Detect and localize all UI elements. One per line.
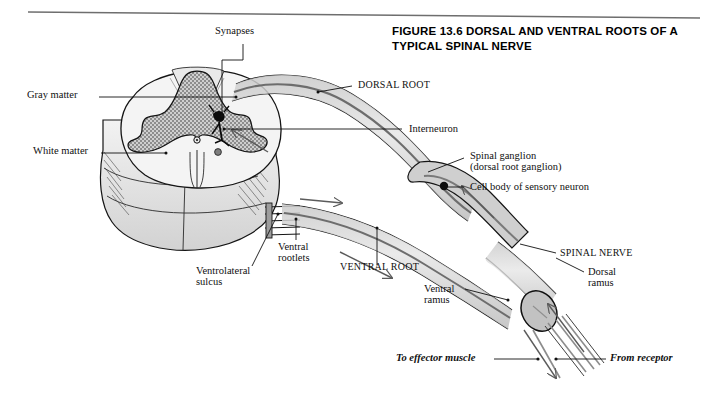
label-from-receptor: From receptor xyxy=(610,352,673,363)
label-dorsal-ramus: Dorsalramus xyxy=(588,266,616,289)
label-white-matter: White matter xyxy=(33,145,88,156)
figure-canvas: FIGURE 13.6 DORSAL AND VENTRAL ROOTS OF … xyxy=(0,0,718,407)
label-synapses: Synapses xyxy=(215,25,254,36)
label-interneuron: Interneuron xyxy=(409,123,458,134)
figure-title: FIGURE 13.6 DORSAL AND VENTRAL ROOTS OF … xyxy=(392,24,692,53)
nerve-cut-end xyxy=(514,284,564,337)
top-rule xyxy=(28,12,700,18)
label-dorsal-root: DORSAL ROOT xyxy=(358,80,430,91)
label-ventral-ramus: Ventralramus xyxy=(424,283,454,306)
label-spinal-ganglion: Spinal ganglion(dorsal root ganglion) xyxy=(470,150,562,173)
spinal-nerve-diagram xyxy=(0,0,718,407)
label-cell-body-sensory-neuron: Cell body of sensory neuron xyxy=(470,181,589,192)
label-ventrolateral-sulcus: Ventrolateralsulcus xyxy=(196,265,250,288)
label-to-effector-muscle: To effector muscle xyxy=(396,352,475,363)
label-ventral-rootlets: Ventralrootlets xyxy=(278,241,310,264)
label-ventral-root: VENTRAL ROOT xyxy=(340,262,419,273)
label-spinal-nerve: SPINAL NERVE xyxy=(560,248,633,259)
spinal-ganglion xyxy=(408,161,528,248)
label-gray-matter: Gray matter xyxy=(27,89,77,100)
